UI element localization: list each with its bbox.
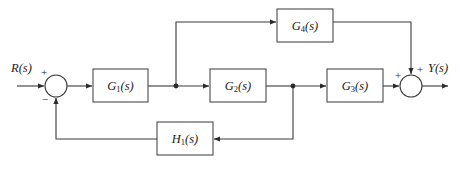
branch-point-after-g1 bbox=[174, 84, 179, 89]
wire-h1-to-sum-left bbox=[56, 98, 157, 139]
branch-point-after-g2 bbox=[291, 84, 296, 89]
summing-junction-left bbox=[45, 75, 67, 97]
block-g4-label: G4(s) bbox=[292, 18, 318, 33]
block-h1-label: H1(s) bbox=[171, 131, 198, 146]
block-g3-label: G3(s) bbox=[342, 78, 368, 93]
output-signal-label: Y(s) bbox=[428, 61, 448, 75]
diagram-svg: + − + + G1(s) G2(s) G3(s) G4(s) H1(s) bbox=[0, 0, 460, 171]
block-diagram-canvas: + − + + G1(s) G2(s) G3(s) G4(s) H1(s) bbox=[0, 0, 460, 171]
sign-left-sum-minus: − bbox=[42, 93, 48, 105]
block-g1-label: G1(s) bbox=[107, 78, 133, 93]
sign-right-sum-plus-top: + bbox=[417, 63, 423, 75]
wire-g4-to-sum-right bbox=[333, 22, 411, 74]
sign-left-sum-plus: + bbox=[41, 66, 47, 78]
block-g2-label: G2(s) bbox=[225, 78, 251, 93]
summing-junction-right bbox=[400, 75, 422, 97]
sign-right-sum-plus-left: + bbox=[395, 69, 401, 81]
input-signal-label: R(s) bbox=[10, 61, 32, 75]
